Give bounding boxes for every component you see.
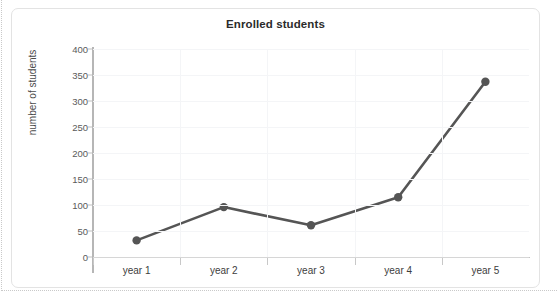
gridline-horizontal	[93, 231, 529, 232]
data-point	[307, 221, 315, 229]
data-point	[481, 78, 489, 86]
series-line	[137, 82, 486, 241]
x-axis-tick-mark	[355, 258, 356, 265]
y-axis-tick-label: 150	[54, 174, 88, 185]
y-axis-tick-label: 250	[54, 122, 88, 133]
data-point	[132, 236, 140, 244]
x-axis-tick-mark	[180, 258, 181, 265]
x-axis-tick-label: year 1	[97, 265, 177, 276]
gridline-horizontal	[93, 49, 529, 50]
y-axis-tick-labels: 400350300250200150100500	[50, 49, 88, 257]
x-axis-tick-mark	[442, 258, 443, 265]
x-axis-tick-labels: year 1year 2year 3year 4year 5	[93, 265, 530, 283]
gridline-vertical	[355, 49, 356, 257]
chart-title: Enrolled students	[12, 18, 539, 30]
gridline-horizontal	[93, 75, 529, 76]
y-axis-tick-label: 200	[54, 148, 88, 159]
gridline-horizontal	[93, 101, 529, 102]
gridline-vertical	[267, 49, 268, 257]
x-axis-tick-label: year 4	[358, 265, 438, 276]
y-axis-tick-label: 400	[54, 44, 88, 55]
x-axis-tick-label: year 2	[184, 265, 264, 276]
x-axis-tick-label: year 3	[271, 265, 351, 276]
gridline-vertical	[442, 49, 443, 257]
x-axis-tick-mark	[267, 258, 268, 265]
plot-area	[93, 49, 529, 257]
gridline-horizontal	[93, 179, 529, 180]
series-markers	[132, 78, 489, 245]
gridline-horizontal	[93, 127, 529, 128]
gridline-horizontal	[93, 257, 529, 258]
y-axis-tick-label: 300	[54, 96, 88, 107]
y-axis-tick-label: 350	[54, 70, 88, 81]
gridline-vertical	[180, 49, 181, 257]
gridline-horizontal	[93, 153, 529, 154]
y-axis-title: number of students	[27, 23, 38, 163]
data-point	[394, 193, 402, 201]
x-axis-tick-label: year 5	[445, 265, 525, 276]
chart-card: Enrolled students number of students 400…	[11, 8, 540, 288]
y-axis-tick-label: 100	[54, 200, 88, 211]
y-axis-tick-label: 0	[54, 252, 88, 263]
x-axis-tick-mark	[93, 258, 94, 265]
y-axis-tick-label: 50	[54, 226, 88, 237]
gridline-horizontal	[93, 205, 529, 206]
